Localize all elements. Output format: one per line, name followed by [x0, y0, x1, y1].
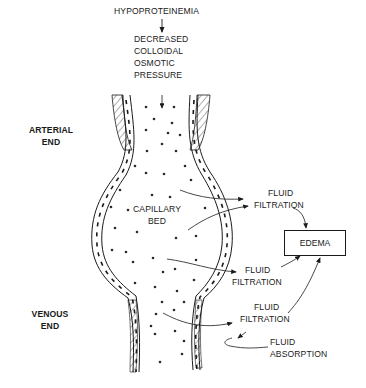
fluid-filtration-3-line1: FLUID	[254, 302, 279, 314]
venous-end-label-2: END	[26, 321, 74, 333]
filtration-arrow-1	[180, 190, 243, 199]
fluid-filtration-3-line2: FILTRATION	[240, 314, 290, 326]
effect-line-3: OSMOTIC	[134, 58, 175, 70]
to-edema-arrow-3	[288, 258, 320, 313]
arterial-end-label-2: END	[24, 137, 78, 149]
fluid-filtration-2-line1: FLUID	[245, 265, 270, 277]
edema-box: EDEMA	[284, 230, 346, 256]
capillary-edema-diagram: HYPOPROTEINEMIA DECREASED COLLOIDAL OSMO…	[0, 0, 366, 388]
cause-label: HYPOPROTEINEMIA	[114, 6, 199, 18]
capillary-bed-label-2: BED	[133, 216, 181, 228]
fluid-filtration-2-line2: FILTRATION	[232, 277, 282, 289]
capillary-bed-label-1: CAPILLARY	[133, 204, 181, 216]
effect-line-1: DECREASED	[134, 34, 188, 46]
fluid-filtration-1-line1: FLUID	[268, 188, 293, 200]
fluid-filtration-1-line2: FILTRATION	[254, 200, 304, 212]
effect-line-2: COLLOIDAL	[134, 46, 183, 58]
venous-end-label-1: VENOUS	[26, 309, 74, 321]
fluid-absorption-line2: ABSORPTION	[270, 349, 327, 361]
to-edema-arrow-2	[281, 256, 300, 267]
arterial-end-label-1: ARTERIAL	[24, 125, 78, 137]
absorption-arrow	[225, 338, 268, 348]
effect-line-4: PRESSURE	[134, 70, 182, 82]
fluid-absorption-line1: FLUID	[270, 337, 295, 349]
